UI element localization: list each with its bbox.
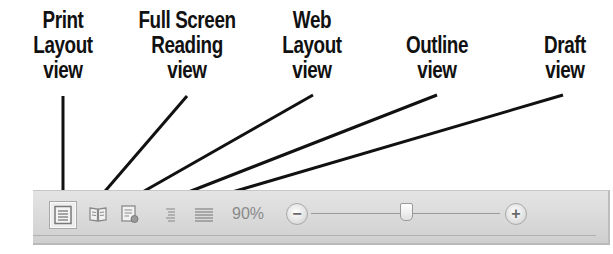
minus-icon: − — [292, 206, 301, 222]
callout-line-web-layout — [132, 95, 313, 198]
outline-icon — [161, 204, 181, 224]
full-screen-reading-button[interactable] — [85, 201, 111, 227]
full-screen-reading-icon — [88, 204, 108, 224]
callout-line-draft — [205, 95, 563, 200]
status-bar: 90% − + — [33, 190, 610, 245]
zoom-in-button[interactable]: + — [505, 203, 527, 225]
zoom-slider-track-right[interactable] — [413, 213, 500, 214]
web-layout-icon — [120, 204, 140, 224]
zoom-out-button[interactable]: − — [286, 203, 308, 225]
plus-icon: + — [511, 206, 520, 222]
status-bar-divider — [33, 235, 596, 236]
outline-button[interactable] — [158, 201, 184, 227]
web-layout-button[interactable] — [117, 201, 143, 227]
print-layout-icon — [53, 205, 73, 225]
draft-icon — [193, 204, 215, 224]
callout-line-outline — [168, 95, 437, 200]
zoom-level-button[interactable]: 90% — [232, 205, 264, 223]
draft-button[interactable] — [191, 201, 217, 227]
zoom-slider-thumb[interactable] — [400, 203, 413, 221]
callout-line-full-screen-reading — [100, 96, 187, 197]
print-layout-button[interactable] — [49, 201, 77, 229]
zoom-slider-track[interactable] — [311, 213, 400, 214]
